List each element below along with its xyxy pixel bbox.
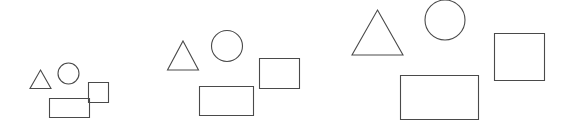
square-shape (260, 59, 300, 89)
square-shape (495, 34, 545, 81)
triangle-shape (168, 41, 199, 70)
shape-canvas-root (0, 0, 564, 132)
triangle-shape (352, 10, 403, 55)
circle-shape (212, 31, 243, 62)
shape-group-medium (168, 31, 300, 116)
triangle-shape (30, 70, 51, 89)
rectangle-shape (50, 99, 90, 118)
circle-shape (58, 63, 79, 84)
shape-group-small (30, 63, 109, 118)
square-shape (89, 83, 109, 103)
shape-group-large (352, 0, 545, 120)
rectangle-shape (200, 87, 254, 116)
circle-shape (425, 0, 465, 40)
rectangle-shape (401, 76, 479, 120)
shape-canvas (0, 0, 564, 132)
